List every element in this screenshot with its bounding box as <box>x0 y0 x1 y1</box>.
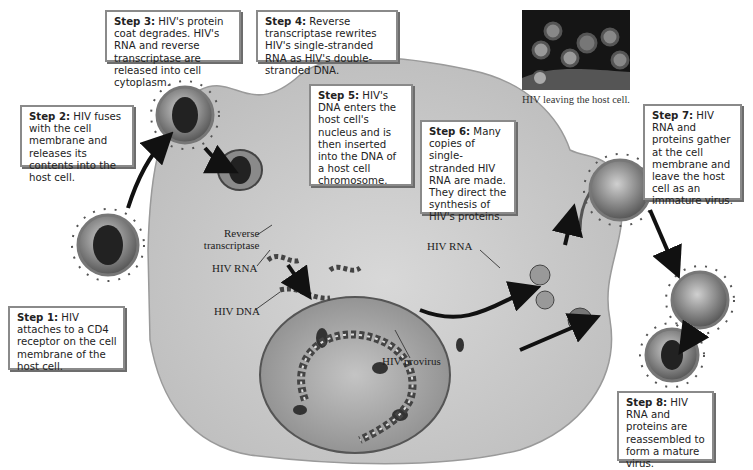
label-hiv-provirus: HIV provirus <box>382 355 441 367</box>
capsid-step3 <box>218 150 262 190</box>
step-4-box: Step 4: Reverse transcriptase rewrites H… <box>256 10 398 62</box>
label-reverse-transcriptase: Reverse transcriptase <box>210 227 259 251</box>
step-6-label: Step 6: <box>429 126 470 137</box>
step-8-label: Step 8: <box>626 397 667 408</box>
step-1-label: Step 1: <box>17 312 58 323</box>
step-1-box: Step 1: HIV attaches to a CD4 receptor o… <box>8 306 125 370</box>
step-8-box: Step 8: HIV RNA and proteins are reassem… <box>617 391 714 461</box>
label-reverse-line2: transcriptase <box>198 239 259 251</box>
step-5-label: Step 5: <box>318 90 359 101</box>
label-hiv-rna-cytoplasm: HIV RNA <box>427 240 472 252</box>
step-7-text: HIV RNA and proteins gather at the cell … <box>652 110 733 206</box>
label-hiv-dna: HIV DNA <box>214 305 260 317</box>
step-2-box: Step 2: HIV fuses with the cell membrane… <box>20 105 134 167</box>
photo-caption: HIV leaving the host cell. <box>522 94 630 105</box>
label-hiv-rna: HIV RNA <box>212 262 257 274</box>
step-3-box: Step 3: HIV's protein coat degrades. HIV… <box>105 10 241 62</box>
step-7-label: Step 7: <box>652 110 693 121</box>
step-4-label: Step 4: <box>265 16 306 27</box>
step-6-text: Many copies of single-stranded HIV RNA a… <box>429 126 506 222</box>
step-5-text: HIV's DNA enters the host cell's nucleus… <box>318 90 396 186</box>
step-7-box: Step 7: HIV RNA and proteins gather at t… <box>643 104 742 200</box>
virus-step1 <box>72 209 144 281</box>
step-6-box: Step 6: Many copies of single-stranded H… <box>420 120 516 214</box>
electron-micrograph <box>522 10 630 90</box>
label-reverse-line1: Reverse <box>210 227 259 239</box>
step-2-label: Step 2: <box>29 111 70 122</box>
step-5-box: Step 5: HIV's DNA enters the host cell's… <box>309 84 413 186</box>
step-3-label: Step 3: <box>114 16 155 27</box>
